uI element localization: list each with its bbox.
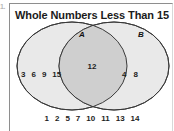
outside-value-4: 10 xyxy=(86,114,95,123)
set-a-value-2: 9 xyxy=(42,70,46,79)
figure-title: Whole Numbers Less Than 15 xyxy=(10,9,173,21)
outside-value-3: 7 xyxy=(76,114,80,123)
outside-value-1: 2 xyxy=(55,114,59,123)
venn-diagram: A B 36915 12 48 xyxy=(10,21,173,116)
set-a-value-0: 3 xyxy=(21,70,25,79)
venn-diagram-figure: 1. Whole Numbers Less Than 15 A B xyxy=(0,0,174,131)
set-a-only-values: 36915 xyxy=(21,70,67,79)
item-number-label: 1. xyxy=(0,2,8,11)
set-b-label: B xyxy=(138,30,144,39)
set-b-only-values: 48 xyxy=(122,70,145,79)
figure-panel: Whole Numbers Less Than 15 A B 36915 xyxy=(9,3,173,131)
outside-value-0: 1 xyxy=(45,114,49,123)
set-intersection-values: 12 xyxy=(10,62,173,71)
intersection-value-0: 12 xyxy=(88,62,97,71)
outside-value-5: 11 xyxy=(101,114,109,123)
outside-universe-values: 125710111314 xyxy=(10,114,173,123)
outside-value-6: 13 xyxy=(116,114,125,123)
set-b-value-0: 4 xyxy=(122,70,126,79)
set-b-value-1: 8 xyxy=(133,70,137,79)
set-a-value-3: 15 xyxy=(52,70,61,79)
outside-value-7: 14 xyxy=(131,114,140,123)
set-a-value-1: 6 xyxy=(31,70,35,79)
set-a-label: A xyxy=(79,30,85,39)
outside-value-2: 5 xyxy=(65,114,69,123)
